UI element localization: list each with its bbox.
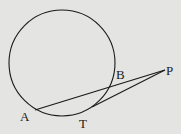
geometry-diagram: A B T P — [0, 0, 181, 134]
label-B: B — [116, 67, 125, 82]
label-A: A — [20, 109, 30, 124]
secant-line-AP — [35, 70, 165, 110]
label-T: T — [79, 116, 87, 131]
circle — [9, 10, 115, 116]
tangent-line-TP — [92, 70, 165, 107]
label-P: P — [166, 63, 173, 78]
